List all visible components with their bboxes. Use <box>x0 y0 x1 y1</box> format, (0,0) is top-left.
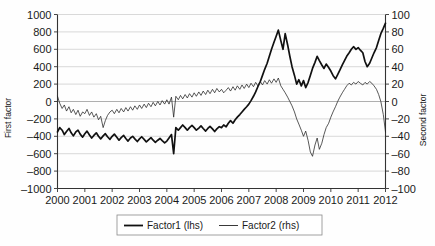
x-tick-label: 2002 <box>100 194 124 206</box>
left-tick-label: 400 <box>33 61 51 73</box>
right-tick-label: 40 <box>392 61 404 73</box>
left-tick-label: 1000 <box>27 9 51 21</box>
right-tick-label: 60 <box>392 43 404 55</box>
x-tick-label: 2003 <box>127 194 151 206</box>
x-tick-label: 2011 <box>346 194 370 206</box>
x-tick-label: 2012 <box>373 194 397 206</box>
x-tick-label: 2007 <box>237 194 261 206</box>
right-axis-title: Second factor <box>418 94 428 147</box>
left-tick-label: 800 <box>33 26 51 38</box>
left-tick-label: –400 <box>27 130 51 142</box>
left-tick-label: –200 <box>27 113 51 125</box>
x-tick-label: 2005 <box>182 194 206 206</box>
x-tick-label: 2004 <box>155 194 179 206</box>
x-tick-label: 2010 <box>319 194 343 206</box>
chart-background <box>0 0 435 246</box>
x-tick-label: 2006 <box>209 194 233 206</box>
left-tick-label: 200 <box>33 78 51 90</box>
x-tick-label: 2000 <box>45 194 69 206</box>
right-tick-label: –20 <box>392 113 410 125</box>
right-tick-label: –40 <box>392 130 410 142</box>
x-tick-label: 2001 <box>73 194 97 206</box>
right-tick-label: 20 <box>392 78 404 90</box>
legend-label-factor1: Factor1 (lhs) <box>147 220 203 231</box>
chart-legend: Factor1 (lhs) Factor2 (rhs) <box>117 215 322 235</box>
left-tick-label: –600 <box>27 148 51 160</box>
right-tick-label: –80 <box>392 165 410 177</box>
legend-label-factor2: Factor2 (rhs) <box>242 220 299 231</box>
left-tick-label: 600 <box>33 43 51 55</box>
right-tick-label: –60 <box>392 148 410 160</box>
left-axis-title: First factor <box>3 98 13 138</box>
left-tick-label: 0 <box>45 96 51 108</box>
x-tick-label: 2009 <box>291 194 315 206</box>
line-chart: 10008006004002000–200–400–600–800–1000 1… <box>0 0 435 246</box>
right-tick-label: 0 <box>392 96 398 108</box>
left-tick-label: –800 <box>27 165 51 177</box>
x-tick-label: 2008 <box>264 194 288 206</box>
right-tick-label: 80 <box>392 26 404 38</box>
right-tick-label: 100 <box>392 9 410 21</box>
chart-container: 10008006004002000–200–400–600–800–1000 1… <box>0 0 435 246</box>
